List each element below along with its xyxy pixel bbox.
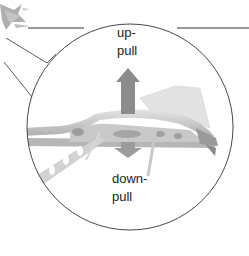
- wing-lift-diagram: up- pull down- pull: [0, 0, 249, 256]
- up-pull-label: up- pull: [117, 24, 137, 60]
- down-pull-label: down- pull: [112, 170, 147, 206]
- airplane-thumbnail-icon: [0, 4, 30, 30]
- callout-line-top: [6, 38, 47, 63]
- callout-line-bottom: [4, 62, 32, 97]
- arrow-up-icon: [116, 68, 140, 114]
